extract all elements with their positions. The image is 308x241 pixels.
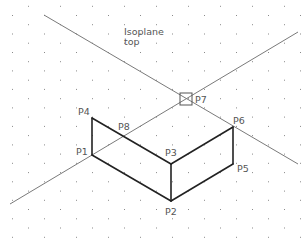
grid-dot xyxy=(252,80,253,81)
grid-dot xyxy=(220,61,221,62)
grid-dot xyxy=(300,15,301,16)
grid-dot xyxy=(300,181,301,182)
grid-dot xyxy=(140,52,141,53)
edge-p6-p3[interactable] xyxy=(171,127,233,164)
grid-dot xyxy=(156,6,157,7)
grid-dot xyxy=(60,228,61,229)
grid-dot xyxy=(140,89,141,90)
grid-dot xyxy=(156,209,157,210)
grid-dot xyxy=(92,172,93,173)
grid-dot xyxy=(92,80,93,81)
grid-dot xyxy=(92,228,93,229)
grid-dot xyxy=(236,70,237,71)
grid-dot xyxy=(140,15,141,16)
grid-dot xyxy=(188,43,189,44)
grid-dot xyxy=(284,191,285,192)
grid-dot xyxy=(204,107,205,108)
grid-dot xyxy=(188,172,189,173)
point-label-p2: P2 xyxy=(165,206,177,217)
grid-dot xyxy=(12,107,13,108)
grid-dot xyxy=(268,107,269,108)
grid-dot xyxy=(60,154,61,155)
grid-dot xyxy=(188,6,189,7)
grid-dot xyxy=(108,237,109,238)
grid-dot xyxy=(252,24,253,25)
grid-dot xyxy=(60,6,61,7)
grid-dot xyxy=(76,126,77,127)
grid-dot xyxy=(300,34,301,35)
grid-dot xyxy=(60,135,61,136)
grid-dot xyxy=(12,89,13,90)
grid-dot xyxy=(252,228,253,229)
construction-line-diagonal-rising[interactable] xyxy=(10,32,298,204)
isoplane-mode-label: top xyxy=(124,36,140,47)
grid-dot xyxy=(252,61,253,62)
grid-dot xyxy=(300,144,301,145)
isometric-drawing[interactable]: P1P2P3P4P5P6P7P8 Isoplane top xyxy=(0,0,308,241)
grid-dot xyxy=(60,117,61,118)
grid-dot xyxy=(12,34,13,35)
grid-dot xyxy=(220,191,221,192)
grid-dot xyxy=(204,52,205,53)
grid-dot xyxy=(284,43,285,44)
grid-dot xyxy=(44,200,45,201)
grid-dot xyxy=(252,154,253,155)
grid-dot xyxy=(172,218,173,219)
grid-dot xyxy=(76,237,77,238)
grid-dot xyxy=(60,191,61,192)
grid-dot xyxy=(268,34,269,35)
grid-dot xyxy=(44,181,45,182)
construction-line-diagonal-falling[interactable] xyxy=(44,15,298,164)
grid-dot xyxy=(268,126,269,127)
grid-dot xyxy=(284,24,285,25)
grid-dot xyxy=(204,200,205,201)
grid-dot xyxy=(28,154,29,155)
grid-dot xyxy=(44,34,45,35)
grid-dot xyxy=(236,34,237,35)
grid-dot xyxy=(268,163,269,164)
grid-dot xyxy=(284,228,285,229)
grid-dot xyxy=(268,52,269,53)
grid-dot xyxy=(44,237,45,238)
grid-dot xyxy=(300,200,301,201)
grid-dot xyxy=(220,24,221,25)
grid-dot xyxy=(92,6,93,7)
grid-dot xyxy=(156,228,157,229)
grid-dot xyxy=(300,89,301,90)
grid-dot xyxy=(300,126,301,127)
grid-dot xyxy=(284,98,285,99)
grid-dot xyxy=(252,172,253,173)
grid-dot xyxy=(172,237,173,238)
grid-dot xyxy=(220,117,221,118)
grid-dot xyxy=(124,191,125,192)
grid-dot xyxy=(204,218,205,219)
grid-dot xyxy=(300,237,301,238)
grid-dot xyxy=(268,181,269,182)
grid-dot xyxy=(236,144,237,145)
grid-dot xyxy=(188,135,189,136)
grid-dot xyxy=(124,80,125,81)
point-label-p1: P1 xyxy=(76,146,88,157)
edge-p2-p5[interactable] xyxy=(171,164,233,201)
grid-dot xyxy=(268,144,269,145)
grid-dot xyxy=(28,43,29,44)
grid-dot xyxy=(124,98,125,99)
grid-dot xyxy=(108,15,109,16)
grid-dot xyxy=(28,61,29,62)
edge-p3-p4[interactable] xyxy=(92,118,171,164)
grid-dot xyxy=(156,98,157,99)
grid-dot xyxy=(220,80,221,81)
grid-dot xyxy=(156,61,157,62)
edge-p1-p2[interactable] xyxy=(92,155,171,201)
grid-dot xyxy=(28,209,29,210)
grid-dot xyxy=(28,6,29,7)
point-label-p6: P6 xyxy=(233,115,245,126)
drawing-canvas[interactable]: P1P2P3P4P5P6P7P8 Isoplane top xyxy=(0,0,308,241)
grid-dot xyxy=(220,98,221,99)
grid-dot xyxy=(60,209,61,210)
grid-dot xyxy=(284,154,285,155)
grid-dot xyxy=(76,52,77,53)
grid-dot xyxy=(204,126,205,127)
grid-dot xyxy=(188,24,189,25)
grid-dot xyxy=(236,200,237,201)
